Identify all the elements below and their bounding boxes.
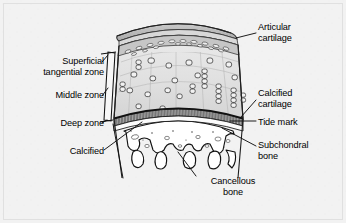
label-articular-cartilage: Articular cartilage: [258, 22, 344, 43]
label-deep-zone: Deep zone: [8, 118, 104, 129]
label-middle-zone: Middle zone: [8, 90, 104, 101]
label-subchondral-bone: Subchondral bone: [258, 140, 344, 161]
label-superficial-tangential-zone: Superficial tangential zone: [8, 56, 104, 77]
label-tide-mark: Tide mark: [258, 117, 344, 128]
figure-container: Superficial tangential zone Middle zone …: [0, 0, 346, 223]
label-cancellous-bone: Cancellous bone: [190, 176, 276, 197]
label-calcified: Calcified: [8, 146, 104, 157]
label-calcified-cartilage: Calcified cartilage: [258, 88, 344, 109]
